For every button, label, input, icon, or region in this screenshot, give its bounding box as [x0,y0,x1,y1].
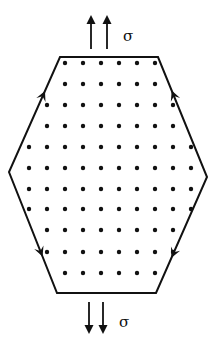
atom-dot [27,166,31,170]
atom-dot [99,271,103,275]
atom-dot [135,271,139,275]
atom-dot [171,166,175,170]
atom-dot [189,187,193,191]
atom-dot [117,187,121,191]
atom-dot [135,103,139,107]
atom-dot [171,228,175,232]
atom-dot [99,166,103,170]
atom-dot [45,228,49,232]
tensile-stress-arrows-bottom [85,302,108,334]
atom-dot [27,145,31,149]
atom-dot [117,61,121,65]
atom-dot [63,82,67,86]
atom-dot [45,187,49,191]
atom-dot [153,61,157,65]
atom-dot [117,207,121,211]
atom-dot [153,103,157,107]
atom-dot [99,207,103,211]
atom-dot [135,61,139,65]
atom-dot [45,250,49,254]
atom-dot [117,271,121,275]
atom-dot [153,82,157,86]
atom-dot [117,82,121,86]
atom-dot [63,207,67,211]
atom-dot [81,61,85,65]
atom-dot [63,187,67,191]
grain-boundary-hexagon [9,57,207,293]
atom-dot [81,250,85,254]
atom-dot [171,187,175,191]
atom-dot [135,250,139,254]
atom-dot [81,207,85,211]
atom-dot [117,250,121,254]
atom-dot [45,145,49,149]
atom-dot [189,207,193,211]
tensile-stress-arrows-top [87,15,112,49]
atom-dot [27,187,31,191]
atom-lattice [27,61,193,275]
arrow-down-icon [99,325,108,334]
atom-dot [135,187,139,191]
atom-dot [63,166,67,170]
atom-dot [81,145,85,149]
atom-dot [63,250,67,254]
atom-dot [99,187,103,191]
arrow-up-icon [103,15,112,24]
atom-dot [117,145,121,149]
atom-dot [81,228,85,232]
atom-dot [99,61,103,65]
sigma-label-top: σ [123,27,133,45]
atom-dot [81,103,85,107]
atom-dot [81,271,85,275]
atom-dot [153,250,157,254]
atom-dot [153,145,157,149]
boundary-sliding-arrows [34,91,180,258]
atom-dot [135,82,139,86]
atom-dot [117,124,121,128]
atom-dot [189,145,193,149]
atom-dot [99,103,103,107]
atom-dot [117,166,121,170]
atom-dot [81,166,85,170]
atom-dot [45,207,49,211]
atom-dot [117,228,121,232]
atom-dot [153,166,157,170]
atom-dot [171,207,175,211]
atom-dot [63,61,67,65]
sigma-label-bottom: σ [119,313,129,331]
atom-dot [171,145,175,149]
atom-dot [189,166,193,170]
atom-dot [81,124,85,128]
atom-dot [135,228,139,232]
atom-dot [153,228,157,232]
atom-dot [135,124,139,128]
atom-dot [117,103,121,107]
atom-dot [135,207,139,211]
atom-dot [153,271,157,275]
atom-dot [63,145,67,149]
atom-dot [63,228,67,232]
atom-dot [45,166,49,170]
atom-dot [63,124,67,128]
grain-diagram: σ σ [0,0,224,344]
atom-dot [153,187,157,191]
atom-dot [99,124,103,128]
atom-dot [153,207,157,211]
atom-dot [153,124,157,128]
atom-dot [81,187,85,191]
atom-dot [99,250,103,254]
arrow-down-icon [85,325,94,334]
atom-dot [99,145,103,149]
atom-dot [99,82,103,86]
atom-dot [63,271,67,275]
atom-dot [27,207,31,211]
atom-dot [63,103,67,107]
atom-dot [135,166,139,170]
atom-dot [45,103,49,107]
arrow-up-icon [87,15,96,24]
atom-dot [45,124,49,128]
atom-dot [81,82,85,86]
atom-dot [99,228,103,232]
atom-dot [171,124,175,128]
atom-dot [135,145,139,149]
